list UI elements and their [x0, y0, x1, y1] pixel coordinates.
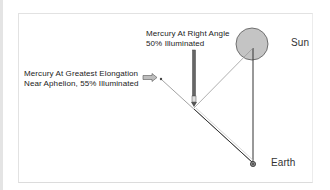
mercury-elongation-dot [160, 78, 162, 80]
right-angle-label-line1: Mercury At Right Angle [146, 29, 230, 39]
elongation-label-line2: Near Aphelion, 55% Illuminated [24, 79, 139, 89]
right-angle-label-line2: 50% Illuminated [146, 39, 204, 49]
elongation-label-line1: Mercury At Greatest Elongation [24, 69, 138, 79]
earth-label: Earth [271, 158, 295, 168]
sun-label: Sun [291, 38, 309, 48]
right-angle-sightline [194, 109, 253, 163]
right-angle-pointer-icon [193, 50, 196, 96]
sun-circle [236, 28, 268, 60]
earth-center [252, 163, 254, 165]
sightline-shadow [196, 108, 254, 161]
sun-mercury-line [194, 48, 253, 108]
elongation-arrow-icon [143, 74, 157, 82]
pointer-tip [192, 96, 196, 102]
